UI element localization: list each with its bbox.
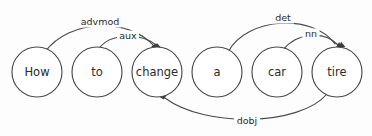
- node-how[interactable]: How: [12, 47, 62, 97]
- edge-label-group-det: det: [272, 12, 294, 24]
- edge-label-group-advmod: advmod: [79, 16, 121, 28]
- edge-label-group-aux: aux: [117, 30, 139, 42]
- edge-label-nn: nn: [305, 28, 317, 39]
- node-label-change: change: [136, 65, 178, 79]
- node-label-tire: tire: [327, 65, 346, 79]
- nodes-layer: Howtochangeacartire: [12, 47, 362, 97]
- node-label-car: car: [268, 65, 286, 79]
- node-a[interactable]: a: [192, 47, 242, 97]
- edge-label-advmod: advmod: [81, 16, 120, 27]
- node-change[interactable]: change: [132, 47, 182, 97]
- node-tire[interactable]: tire: [312, 47, 362, 97]
- node-label-a: a: [213, 65, 220, 79]
- parse-canvas: Howtochangeacartire advmodauxdetnndobj: [0, 0, 372, 136]
- edge-label-aux: aux: [119, 30, 137, 41]
- edge-label-det: det: [275, 12, 291, 23]
- node-label-how: How: [24, 65, 49, 79]
- edge-label-dobj: dobj: [237, 115, 258, 126]
- dependency-parse-diagram: Howtochangeacartire advmodauxdetnndobj: [0, 0, 372, 136]
- node-to[interactable]: to: [72, 47, 122, 97]
- edge-label-group-dobj: dobj: [234, 115, 260, 127]
- node-label-to: to: [91, 65, 103, 79]
- edge-label-group-nn: nn: [303, 28, 320, 40]
- node-car[interactable]: car: [252, 47, 302, 97]
